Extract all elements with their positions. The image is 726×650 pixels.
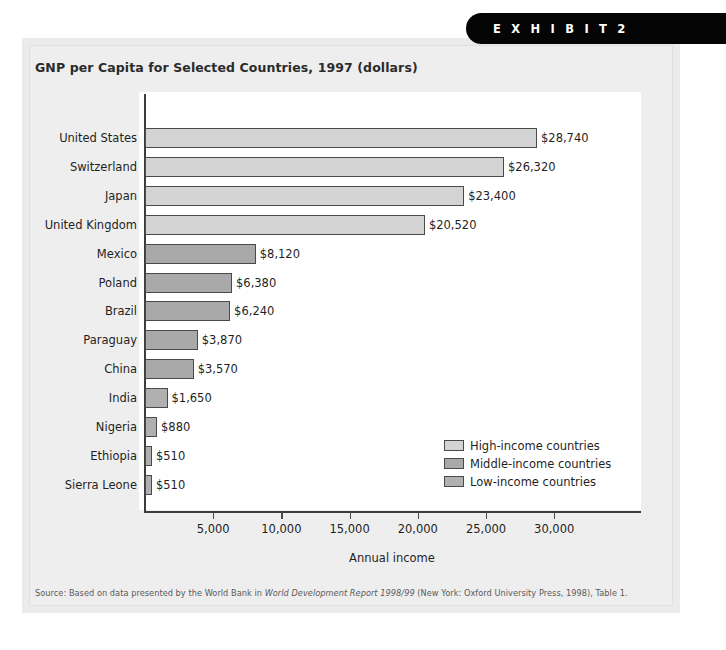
bar-row: Japan$23,400 [0, 186, 701, 206]
bar-row: Nigeria$880 [0, 417, 701, 437]
bar-category-label: Paraguay [83, 330, 137, 350]
bar-category-label: Brazil [105, 301, 137, 321]
chart-legend: High-income countriesMiddle-income count… [444, 437, 611, 491]
bar-value-label: $20,520 [429, 215, 477, 235]
exhibit-badge: E X H I B I T 2 [466, 13, 726, 44]
bar-row: Poland$6,380 [0, 273, 701, 293]
bar-value-label: $6,380 [236, 273, 276, 293]
bar-category-label: Ethiopia [90, 446, 137, 466]
legend-swatch [444, 440, 464, 451]
legend-swatch [444, 458, 464, 469]
source-note-suffix: (New York: Oxford University Press, 1998… [415, 588, 628, 598]
exhibit-badge-label: E X H I B I T 2 [466, 22, 629, 36]
bar-row: China$3,570 [0, 359, 701, 379]
bar-value-label: $3,570 [198, 359, 238, 379]
bar-category-label: United States [59, 128, 137, 148]
x-axis-line [144, 511, 641, 513]
x-tick-mark [554, 512, 555, 519]
bar-value-label: $28,740 [541, 128, 589, 148]
legend-label: Middle-income countries [470, 457, 611, 471]
bar [145, 330, 198, 350]
bar [145, 475, 152, 495]
bar [145, 359, 194, 379]
bar-value-label: $23,400 [468, 186, 516, 206]
bar-row: Switzerland$26,320 [0, 157, 701, 177]
bar [145, 388, 168, 408]
x-tick-mark [281, 512, 282, 519]
bar-value-label: $8,120 [260, 244, 300, 264]
bar-category-label: Poland [99, 273, 137, 293]
bar-row: India$1,650 [0, 388, 701, 408]
bar [145, 186, 464, 206]
bar-category-label: Japan [105, 186, 137, 206]
bar-value-label: $3,870 [202, 330, 242, 350]
bar-row: Brazil$6,240 [0, 301, 701, 321]
bar [145, 301, 230, 321]
x-tick-mark [486, 512, 487, 519]
bar-value-label: $26,320 [508, 157, 556, 177]
source-note-italic: World Development Report 1998/99 [265, 588, 415, 598]
x-tick-label: 5,000 [197, 522, 230, 536]
bar-row: Mexico$8,120 [0, 244, 701, 264]
bar-category-label: United Kingdom [45, 215, 137, 235]
x-axis-title: Annual income [349, 551, 435, 565]
source-note-prefix: Source: Based on data presented by the W… [35, 588, 265, 598]
bar [145, 417, 157, 437]
legend-item: High-income countries [444, 437, 611, 454]
bar-value-label: $6,240 [234, 301, 274, 321]
bar-value-label: $880 [161, 417, 190, 437]
bar [145, 244, 256, 264]
bar-category-label: China [104, 359, 137, 379]
bar-row: United States$28,740 [0, 128, 701, 148]
x-tick-mark [350, 512, 351, 519]
x-tick-mark [418, 512, 419, 519]
bar-category-label: Switzerland [70, 157, 137, 177]
x-tick-label: 20,000 [398, 522, 438, 536]
bar [145, 157, 504, 177]
bar-category-label: Mexico [97, 244, 137, 264]
bar [145, 215, 425, 235]
bar [145, 128, 537, 148]
x-tick-mark [213, 512, 214, 519]
bar-value-label: $510 [156, 446, 185, 466]
x-tick-label: 30,000 [534, 522, 574, 536]
bar-row: Paraguay$3,870 [0, 330, 701, 350]
bar-value-label: $1,650 [172, 388, 212, 408]
x-tick-label: 15,000 [329, 522, 369, 536]
legend-label: High-income countries [470, 439, 600, 453]
bar-row: United Kingdom$20,520 [0, 215, 701, 235]
x-tick-label: 10,000 [261, 522, 301, 536]
x-tick-label: 25,000 [466, 522, 506, 536]
bar [145, 446, 152, 466]
bar-category-label: Nigeria [96, 417, 137, 437]
bar-value-label: $510 [156, 475, 185, 495]
legend-item: Middle-income countries [444, 455, 611, 472]
source-note: Source: Based on data presented by the W… [35, 588, 628, 598]
bar-category-label: Sierra Leone [65, 475, 137, 495]
legend-swatch [444, 476, 464, 487]
bar [145, 273, 232, 293]
legend-item: Low-income countries [444, 473, 611, 490]
bar-category-label: India [109, 388, 137, 408]
legend-label: Low-income countries [470, 475, 596, 489]
